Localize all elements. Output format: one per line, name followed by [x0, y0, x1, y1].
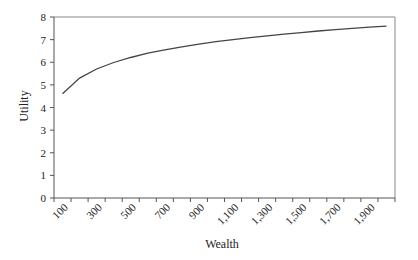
y-tick-label: 8: [41, 11, 47, 23]
y-tick-label: 5: [41, 79, 47, 91]
y-axis: 012345678: [41, 11, 55, 204]
x-tick-label: 700: [152, 201, 173, 222]
y-tick-label: 3: [41, 124, 47, 136]
plot-border: [54, 17, 395, 198]
x-tick-label: 300: [84, 201, 105, 222]
x-tick-label: 1,700: [317, 201, 343, 227]
y-tick-label: 7: [41, 34, 47, 46]
utility-wealth-chart: 012345678 1003005007009001,1001,3001,500…: [0, 0, 418, 260]
x-tick-label: 1,100: [214, 201, 240, 227]
y-axis-title: Utility: [17, 90, 31, 121]
plot-frame: [54, 17, 395, 198]
y-tick-label: 6: [41, 56, 47, 68]
y-tick-label: 0: [41, 192, 47, 204]
x-tick-label: 900: [186, 201, 207, 222]
chart-canvas: 012345678 1003005007009001,1001,3001,500…: [0, 0, 418, 260]
x-tick-label: 1,900: [351, 201, 377, 227]
x-axis-title: Wealth: [205, 237, 239, 251]
x-tick-label: 100: [50, 201, 71, 222]
x-tick-label: 1,300: [249, 201, 275, 227]
utility-line: [63, 26, 387, 94]
y-tick-label: 2: [41, 147, 47, 159]
x-tick-label: 500: [118, 201, 139, 222]
x-axis: 1003005007009001,1001,3001,5001,7001,900: [50, 198, 395, 227]
y-tick-label: 4: [41, 102, 47, 114]
series-utility: [63, 26, 387, 94]
y-tick-label: 1: [41, 169, 47, 181]
x-tick-label: 1,500: [283, 201, 309, 227]
